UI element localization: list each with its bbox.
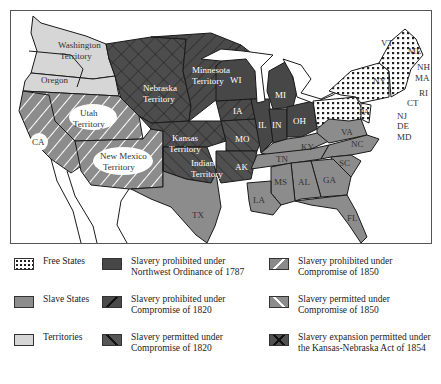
- swatch-permitted-1850: [269, 296, 289, 308]
- label-tn: TN: [276, 154, 288, 164]
- label-in: IN: [272, 120, 282, 130]
- legend-item-territories: Territories: [14, 332, 104, 346]
- label-ri: RI: [419, 88, 428, 98]
- legend-item-northwest-ordinance: Slavery prohibited under Northwest Ordin…: [102, 256, 267, 278]
- label-utah: Utah: [80, 108, 98, 118]
- legend-item-permitted-1850: Slavery permitted under Compromise of 18…: [269, 294, 439, 316]
- swatch-permitted-1820: [102, 334, 122, 346]
- label-me: ME: [408, 46, 422, 56]
- label-nebraska-2: Territory: [143, 94, 175, 104]
- legend-label: Territories: [43, 332, 82, 343]
- label-ms: MS: [274, 177, 287, 187]
- legend-item-slave-states: Slave States: [14, 294, 104, 308]
- label-il: IL: [258, 120, 267, 130]
- label-minnesota-2: Territory: [192, 76, 224, 86]
- legend-label: Free States: [43, 256, 85, 267]
- label-oh: OH: [293, 116, 306, 126]
- legend-label: Slavery permitted under Compromise of 18…: [298, 294, 439, 316]
- label-ct: CT: [407, 98, 419, 108]
- label-ga: GA: [323, 175, 336, 185]
- label-fl: FL: [347, 213, 358, 223]
- label-kansas-2: Territory: [169, 144, 201, 154]
- label-ma: MA: [415, 73, 430, 83]
- legend-item-kansas-nebraska: Slavery expansion permitted under the Ka…: [269, 332, 439, 354]
- swatch-northwest: [102, 258, 122, 270]
- label-va: VA: [341, 127, 353, 137]
- legend-item-prohibited-1820: Slavery prohibited under Compromise of 1…: [102, 294, 267, 316]
- swatch-prohibited-1820: [102, 296, 122, 308]
- legend-item-prohibited-1850: Slavery prohibited under Compromise of 1…: [269, 256, 439, 278]
- label-nh: NH: [417, 62, 430, 72]
- map-frame: Washington Territory Oregon Nebraska Ter…: [10, 10, 432, 244]
- label-ia: IA: [233, 106, 243, 116]
- swatch-kansas-nebraska: [269, 334, 289, 346]
- label-tx: TX: [192, 210, 204, 220]
- swatch-slave-states: [14, 296, 34, 308]
- legend-label: Slavery prohibited under Compromise of 1…: [131, 294, 267, 316]
- swatch-territories: [14, 334, 34, 346]
- legend-label: Slavery permitted under Compromise of 18…: [131, 332, 267, 354]
- label-nj: NJ: [397, 111, 407, 121]
- label-nebraska: Nebraska: [143, 83, 177, 93]
- label-la: LA: [253, 195, 265, 205]
- legend-item-free-states: Free States: [14, 256, 104, 270]
- label-ca: CA: [32, 137, 45, 147]
- label-kansas: Kansas: [172, 133, 198, 143]
- label-new-mexico: New Mexico: [100, 151, 147, 161]
- legend-item-permitted-1820: Slavery permitted under Compromise of 18…: [102, 332, 267, 354]
- label-ky: KY: [301, 142, 314, 152]
- label-minnesota: Minnesota: [192, 65, 230, 75]
- label-pa: PA: [359, 107, 370, 117]
- label-ak: AK: [235, 162, 248, 172]
- swatch-free-states: [14, 258, 34, 270]
- label-ny: NY: [373, 76, 386, 86]
- label-mo: MO: [235, 134, 250, 144]
- label-de: DE: [397, 121, 409, 131]
- label-washington-2: Territory: [60, 51, 92, 61]
- label-vt: VT: [381, 38, 393, 48]
- legend-label: Slavery expansion permitted under the Ka…: [298, 332, 439, 354]
- label-wi: WI: [230, 75, 242, 85]
- label-utah-2: Territory: [73, 119, 105, 129]
- legend: Free States Slavery prohibited under Nor…: [0, 250, 441, 384]
- label-sc: SC: [339, 158, 350, 168]
- label-new-mexico-2: Territory: [103, 162, 135, 172]
- label-indian-2: Territory: [191, 169, 223, 179]
- label-oregon: Oregon: [41, 75, 68, 85]
- label-washington: Washington: [58, 40, 101, 50]
- label-md: MD: [397, 132, 412, 142]
- legend-label: Slavery prohibited under Northwest Ordin…: [131, 256, 267, 278]
- label-indian: Indian: [191, 158, 214, 168]
- legend-label: Slavery prohibited under Compromise of 1…: [298, 256, 439, 278]
- legend-label: Slave States: [43, 294, 89, 305]
- label-mi: MI: [275, 90, 286, 100]
- swatch-prohibited-1850: [269, 258, 289, 270]
- label-nc: NC: [351, 139, 364, 149]
- label-al: AL: [298, 177, 310, 187]
